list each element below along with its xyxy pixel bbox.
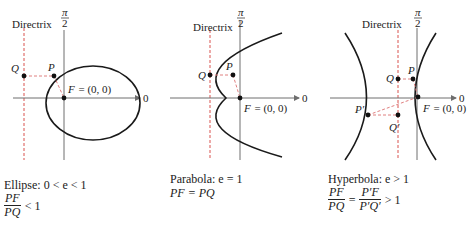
p-label: P (225, 60, 233, 72)
hyperbola-caption: Hyperbola: e > 1 PF PQ = P′F P′Q′ > 1 (328, 172, 409, 213)
fraction-denominator: PQ (4, 206, 21, 219)
hyperbola-left-branch (345, 33, 367, 160)
ellipse-caption: Ellipse: 0 < e < 1 PF PQ < 1 (4, 178, 87, 219)
point-p (411, 77, 416, 82)
focus-label: F = (0, 0) (67, 83, 112, 96)
parabola-caption-line2: PF = PQ (170, 186, 242, 200)
p-prime-f-segment (368, 97, 418, 115)
directrix-label: Directrix (193, 21, 233, 33)
zero-label: 0 (143, 92, 149, 104)
pprime-f-over-pprime-qprime-fraction: P′F P′Q′ (359, 186, 380, 213)
p-prime-label: P′ (354, 103, 365, 115)
directrix-label: Directrix (362, 18, 402, 30)
parabola-curve (216, 33, 282, 157)
zero-label: 0 (302, 92, 308, 104)
hyperbola-caption-ratio: PF PQ = P′F P′Q′ > 1 (328, 186, 409, 213)
fraction-denominator: PQ (328, 200, 345, 213)
point-p (52, 74, 57, 79)
two-label: 2 (238, 17, 244, 29)
ellipse-caption-ratio: PF PQ < 1 (4, 192, 87, 219)
p-label: P (407, 64, 415, 76)
point-p (231, 73, 236, 78)
focus-label: F = (0, 0) (422, 102, 467, 115)
hyperbola-panel: Directrix π 2 0 Q P P′ Q′ F = (0, 0) (330, 6, 467, 160)
p-label: P (47, 61, 55, 73)
fraction-numerator: P′F (359, 186, 380, 200)
pf-segment (233, 75, 240, 98)
parabola-caption-line1: Parabola: e = 1 (170, 172, 242, 186)
fraction-denominator: P′Q′ (359, 200, 380, 213)
q-prime-label: Q′ (389, 121, 400, 133)
point-q (208, 73, 213, 78)
focus-label: F = (0, 0) (243, 102, 288, 115)
focus-f: F (243, 102, 251, 114)
point-q (396, 77, 401, 82)
equals-sign: = (349, 193, 356, 207)
q-label: Q (11, 62, 19, 74)
fraction-numerator: PF (4, 192, 21, 206)
q-label: Q (198, 69, 206, 81)
two-label: 2 (415, 17, 421, 29)
point-q-prime (396, 113, 401, 118)
ratio-relation: < 1 (25, 199, 41, 213)
focus-point (238, 96, 243, 101)
focus-point (62, 96, 67, 101)
parabola-caption: Parabola: e = 1 PF = PQ (170, 172, 242, 200)
point-p-prime (366, 113, 371, 118)
ellipse-curve (46, 66, 140, 140)
ratio-relation: > 1 (385, 193, 401, 207)
focus-f: F (67, 83, 75, 95)
focus-point (416, 95, 421, 100)
ellipse-panel: Directrix π 2 0 Q P F = (0, 0) (11, 6, 149, 160)
pf-segment (54, 76, 64, 98)
fraction-numerator: PF (328, 186, 345, 200)
hyperbola-caption-line1: Hyperbola: e > 1 (328, 172, 409, 186)
focus-f: F (422, 102, 430, 114)
point-q (22, 74, 27, 79)
two-label: 2 (62, 17, 68, 29)
q-label: Q (386, 72, 394, 84)
directrix-label: Directrix (12, 18, 52, 30)
ellipse-caption-line1: Ellipse: 0 < e < 1 (4, 178, 87, 192)
parabola-panel: Directrix π 2 0 Q P F = (0, 0) (170, 6, 308, 160)
pf-over-pq-fraction: PF PQ (328, 186, 345, 213)
pf-over-pq-fraction: PF PQ (4, 192, 21, 219)
